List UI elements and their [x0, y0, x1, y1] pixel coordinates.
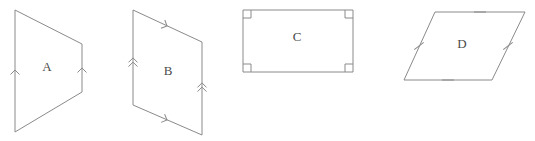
tick-right-side-segment — [503, 42, 512, 49]
shape-group-d: D — [404, 12, 525, 80]
tick-left-side — [414, 42, 423, 49]
right-angle-corner-bottom-left — [243, 64, 251, 72]
shape-label-d: D — [457, 36, 466, 51]
right-angle-corner-top-left-bracket — [243, 10, 251, 18]
right-angle-corner-top-right — [345, 10, 353, 18]
right-angle-corner-top-right-bracket — [345, 10, 353, 18]
shape-label-a: A — [42, 59, 52, 74]
shape-label-b: B — [164, 63, 173, 78]
shape-label-c: C — [293, 29, 302, 44]
tick-right-side — [503, 42, 512, 49]
right-angle-corner-bottom-right-bracket — [345, 64, 353, 72]
right-angle-corner-top-left — [243, 10, 251, 18]
tick-left-side-segment — [414, 42, 423, 49]
shape-group-c: C — [243, 10, 353, 72]
shape-group-b: B — [129, 10, 207, 135]
figure-canvas: ABCD — [0, 0, 535, 141]
shape-group-a: A — [11, 10, 87, 132]
geometry-figure: ABCD — [0, 0, 535, 141]
right-angle-corner-bottom-right — [345, 64, 353, 72]
right-angle-corner-bottom-left-bracket — [243, 64, 251, 72]
